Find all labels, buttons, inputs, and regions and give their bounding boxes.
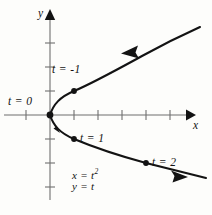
point-marker-t0 [47, 112, 54, 119]
point-marker-t1 [71, 136, 77, 142]
x-axis-label: x [193, 120, 198, 132]
curve-point-markers [47, 88, 149, 166]
axes-group [4, 9, 196, 200]
upper-branch-arrow-icon [121, 46, 139, 59]
point-label-t-0: t = 0 [8, 96, 32, 108]
equation-y-of-t: y = t [72, 181, 94, 192]
point-marker-t-neg1 [71, 88, 77, 94]
parametric-curve-figure: t = -1 t = 0 t = 1 t = 2 y x x = t2 y = … [0, 0, 212, 215]
y-axis-label: y [38, 8, 43, 20]
point-label-t-negative-1: t = -1 [52, 64, 81, 76]
point-label-t-1: t = 1 [80, 133, 104, 145]
parametric-curve-group [50, 27, 206, 178]
equation-x-of-t: x = t2 [72, 168, 98, 181]
point-marker-t2 [143, 160, 149, 166]
y-axis-arrowhead [45, 9, 55, 20]
plot-canvas [0, 0, 212, 215]
equation-x-exponent: 2 [94, 167, 98, 176]
equation-x-base: x = t [72, 169, 94, 181]
point-label-t-2: t = 2 [152, 157, 176, 169]
